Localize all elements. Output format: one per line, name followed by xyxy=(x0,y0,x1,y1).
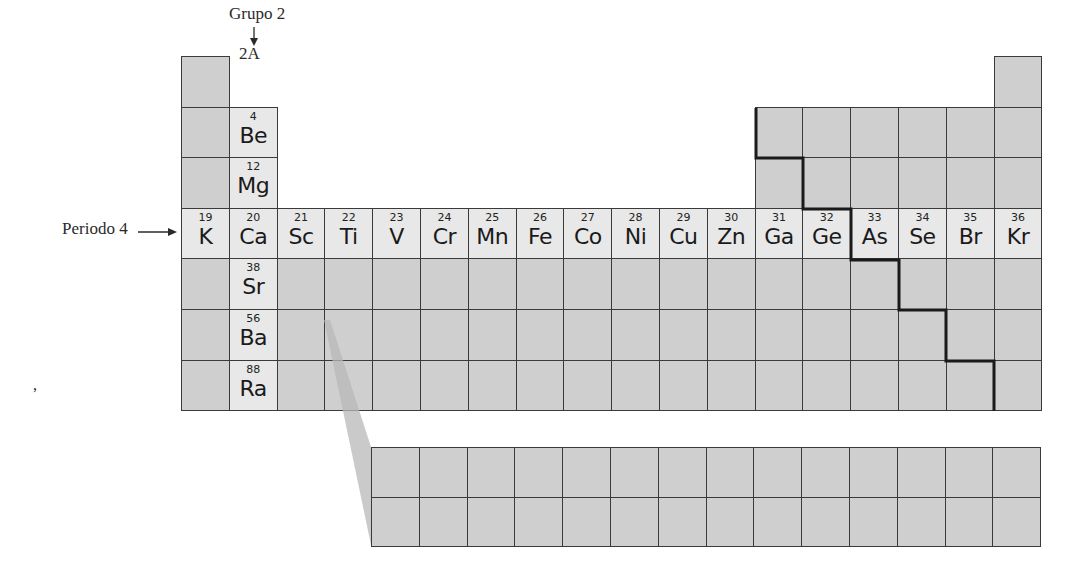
element-cell: 12Mg xyxy=(229,157,278,209)
element-symbol: Kr xyxy=(995,224,1042,250)
period-4-label: Periodo 4 xyxy=(62,219,128,239)
element-symbol: Ra xyxy=(230,376,277,402)
element-cell xyxy=(181,107,230,159)
element-cell xyxy=(707,360,756,412)
atomic-number: 35 xyxy=(947,212,994,224)
f-block-cell xyxy=(849,447,898,498)
element-cell xyxy=(420,309,469,361)
element-cell xyxy=(898,309,947,361)
atomic-number: 27 xyxy=(564,212,611,224)
group-2a-label: 2A xyxy=(239,44,260,64)
element-cell: 27Co xyxy=(563,208,612,260)
f-block-cell xyxy=(562,497,611,548)
f-block-cell xyxy=(514,497,563,548)
element-cell: 56Ba xyxy=(229,309,278,361)
element-cell xyxy=(468,360,517,412)
f-block-cell xyxy=(610,497,659,548)
element-cell xyxy=(277,360,326,412)
element-cell xyxy=(755,360,804,412)
element-cell xyxy=(659,309,708,361)
stray-mark: , xyxy=(33,376,37,394)
element-cell xyxy=(181,309,230,361)
element-cell xyxy=(277,309,326,361)
atomic-number: 26 xyxy=(517,212,564,224)
element-cell xyxy=(516,309,565,361)
atomic-number: 19 xyxy=(182,212,229,224)
element-cell xyxy=(611,309,660,361)
element-cell xyxy=(946,258,995,310)
element-cell xyxy=(181,360,230,412)
f-block-cell xyxy=(945,497,994,548)
f-block-cell xyxy=(849,497,898,548)
element-cell: 31Ga xyxy=(755,208,804,260)
element-symbol: Ca xyxy=(230,224,277,250)
atomic-number: 20 xyxy=(230,212,277,224)
element-symbol: Cu xyxy=(660,224,707,250)
element-cell xyxy=(994,309,1043,361)
element-cell: 33As xyxy=(850,208,899,260)
element-cell xyxy=(563,360,612,412)
element-cell xyxy=(755,157,804,209)
f-block-cell xyxy=(658,497,707,548)
element-symbol: Ba xyxy=(230,325,277,351)
atomic-number: 21 xyxy=(278,212,325,224)
element-cell xyxy=(468,309,517,361)
element-symbol: Se xyxy=(899,224,946,250)
element-cell xyxy=(946,360,995,412)
element-cell xyxy=(372,309,421,361)
element-cell xyxy=(802,157,851,209)
element-cell xyxy=(181,157,230,209)
element-symbol: As xyxy=(851,224,898,250)
element-cell xyxy=(850,107,899,159)
f-block-cell xyxy=(706,497,755,548)
f-block-cell xyxy=(945,447,994,498)
atomic-number: 4 xyxy=(230,111,277,123)
element-cell xyxy=(755,258,804,310)
periodic-table-diagram: Grupo 2 2A Periodo 4 , 4Be12Mg19K20Ca21S… xyxy=(0,0,1065,580)
element-symbol: Ge xyxy=(803,224,850,250)
atomic-number: 28 xyxy=(612,212,659,224)
atomic-number: 23 xyxy=(373,212,420,224)
atomic-number: 88 xyxy=(230,364,277,376)
element-cell xyxy=(372,258,421,310)
element-cell xyxy=(850,309,899,361)
element-cell xyxy=(802,258,851,310)
element-cell: 4Be xyxy=(229,107,278,159)
element-cell xyxy=(946,157,995,209)
element-cell xyxy=(516,258,565,310)
f-block-cell xyxy=(753,497,802,548)
atomic-number: 34 xyxy=(899,212,946,224)
element-cell xyxy=(898,107,947,159)
f-block-cell xyxy=(467,447,516,498)
element-cell xyxy=(181,56,230,108)
atomic-number: 30 xyxy=(708,212,755,224)
element-symbol: Co xyxy=(564,224,611,250)
element-symbol: Zn xyxy=(708,224,755,250)
element-cell xyxy=(802,360,851,412)
element-cell: 20Ca xyxy=(229,208,278,260)
element-symbol: Ti xyxy=(325,224,372,250)
element-cell xyxy=(755,107,804,159)
f-block-cell xyxy=(514,447,563,498)
element-cell xyxy=(563,309,612,361)
element-cell xyxy=(707,258,756,310)
f-block-cell xyxy=(467,497,516,548)
element-cell xyxy=(755,309,804,361)
f-block-cell xyxy=(801,497,850,548)
element-cell xyxy=(802,107,851,159)
element-cell xyxy=(898,157,947,209)
element-cell: 25Mn xyxy=(468,208,517,260)
atomic-number: 22 xyxy=(325,212,372,224)
element-cell xyxy=(707,309,756,361)
element-cell xyxy=(850,258,899,310)
element-cell: 88Ra xyxy=(229,360,278,412)
element-cell: 29Cu xyxy=(659,208,708,260)
atomic-number: 32 xyxy=(803,212,850,224)
atomic-number: 29 xyxy=(660,212,707,224)
element-symbol: Cr xyxy=(421,224,468,250)
element-cell xyxy=(802,309,851,361)
element-cell: 26Fe xyxy=(516,208,565,260)
element-cell xyxy=(277,258,326,310)
element-cell xyxy=(468,258,517,310)
f-block-cell xyxy=(706,447,755,498)
